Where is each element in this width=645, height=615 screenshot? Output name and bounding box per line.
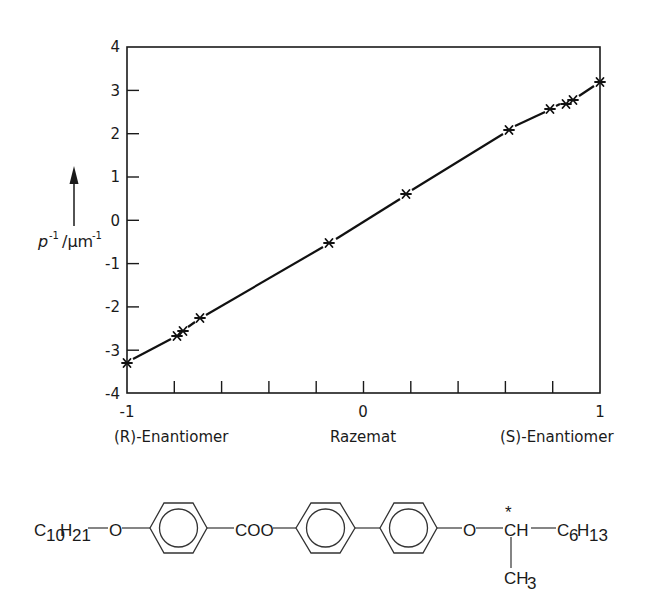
r-enantiomer-label: (R)-Enantiomer	[114, 428, 229, 446]
s-enantiomer-label: (S)-Enantiomer	[500, 428, 614, 446]
y-axis-label: p -1 /µm -1	[37, 166, 102, 251]
y-label-exp2: -1	[92, 230, 102, 241]
formula-ch3-sub: 3	[527, 574, 536, 593]
formula-ester-coo: COO	[235, 521, 274, 540]
formula-h21-h: H	[60, 521, 72, 540]
formula-oxygen-1: O	[109, 521, 122, 540]
bonds	[88, 528, 556, 568]
asterisk-marker	[401, 190, 411, 198]
chart-figure: 4 3 2 1 0 -1 -2 -3 -4 -1 0 1 (R)-Enantio…	[0, 0, 645, 615]
y-tick-label: -3	[105, 342, 120, 360]
y-label-p: p	[37, 232, 48, 251]
x-tick-label: 1	[595, 403, 605, 421]
y-tick-label: 2	[110, 125, 120, 143]
y-label-unit: /µm	[62, 232, 93, 251]
y-axis-tick-labels: 4 3 2 1 0 -1 -2 -3 -4	[105, 38, 120, 403]
x-axis-ticks	[174, 381, 552, 393]
chiral-center-star: *	[505, 503, 512, 522]
y-axis-ticks	[127, 90, 139, 350]
asterisk-marker	[178, 327, 188, 335]
y-tick-label: 3	[110, 82, 120, 100]
asterisk-marker	[195, 314, 205, 322]
x-tick-label: -1	[120, 403, 135, 421]
formula-ch3: CH	[504, 569, 529, 588]
arrowhead-icon	[70, 166, 79, 184]
y-tick-label: 4	[110, 38, 120, 56]
asterisk-marker	[568, 96, 578, 104]
y-tick-label: -4	[105, 385, 120, 403]
racemate-label: Razemat	[330, 428, 396, 446]
formula-oxygen-2: O	[463, 521, 476, 540]
benzene-ring-icon	[150, 503, 207, 553]
y-tick-label: -1	[105, 255, 120, 273]
formula-c10-c: C	[34, 521, 46, 540]
formula-h13-sub: 13	[589, 526, 608, 545]
y-label-exp1: -1	[49, 230, 59, 241]
formula-c6-c: C	[557, 521, 569, 540]
formula-h13-h: H	[577, 521, 589, 540]
formula-ch: CH	[504, 521, 529, 540]
x-tick-label: 0	[358, 403, 368, 421]
asterisk-marker	[324, 239, 334, 247]
y-tick-label: 0	[110, 212, 120, 230]
y-tick-label: 1	[110, 168, 120, 186]
chemical-structure: C 10 H 21 O COO	[34, 503, 608, 593]
benzene-ring-icon	[380, 503, 437, 553]
asterisk-marker	[504, 126, 514, 134]
x-axis-tick-labels: -1 0 1	[120, 403, 605, 421]
asterisk-marker	[545, 105, 555, 113]
y-tick-label: -2	[105, 298, 120, 316]
plot-frame	[127, 47, 600, 393]
benzene-ring-icon	[296, 503, 355, 553]
formula-h21-sub: 21	[72, 526, 91, 545]
x-axis-category-labels: (R)-Enantiomer Razemat (S)-Enantiomer	[114, 428, 614, 446]
